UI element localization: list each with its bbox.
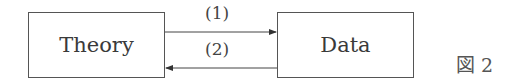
figure-caption: 図 2 bbox=[456, 50, 493, 77]
edge-label-1: (1) bbox=[205, 3, 229, 23]
edge-label-2: (2) bbox=[205, 39, 229, 59]
edge-arrows bbox=[0, 0, 522, 80]
